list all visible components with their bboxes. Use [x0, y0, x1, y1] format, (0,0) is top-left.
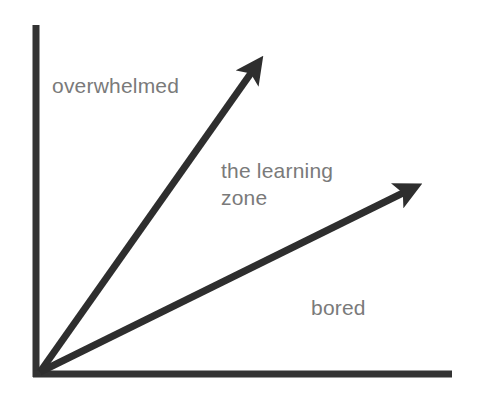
learning-zone-label-line2: zone	[221, 184, 381, 211]
learning-zone-label-line1: the learning	[221, 157, 381, 184]
overwhelmed-label: overwhelmed	[52, 72, 179, 99]
lower-boundary-arrow	[40, 189, 411, 372]
upper-boundary-arrow	[40, 66, 256, 372]
learning-zone-label: the learning zone	[221, 157, 381, 211]
bored-label: bored	[311, 294, 366, 321]
